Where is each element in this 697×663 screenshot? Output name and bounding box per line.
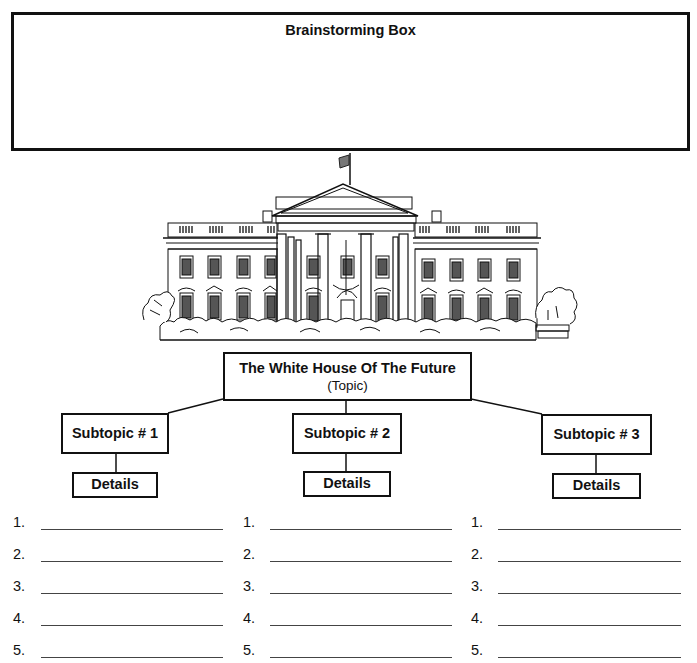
topic-box: The White House Of The Future (Topic) xyxy=(223,352,472,401)
detail-number: 2. xyxy=(471,546,491,562)
detail-number: 4. xyxy=(471,610,491,626)
subtopic-2-box: Subtopic # 2 xyxy=(292,413,402,454)
details-3-box: Details xyxy=(552,473,641,499)
detail-2-3-line[interactable] xyxy=(270,593,452,594)
detail-2-1-line[interactable] xyxy=(270,529,452,530)
detail-number: 5. xyxy=(243,642,263,658)
topic-title: The White House Of The Future xyxy=(225,359,470,377)
white-house-illustration xyxy=(140,150,590,350)
detail-2-2-line[interactable] xyxy=(270,561,452,562)
detail-1-4-line[interactable] xyxy=(41,625,223,626)
details-2-box: Details xyxy=(303,471,391,497)
detail-number: 4. xyxy=(243,610,263,626)
detail-3-3-line[interactable] xyxy=(498,593,681,594)
detail-3-2-line[interactable] xyxy=(498,561,681,562)
topic-subtitle: (Topic) xyxy=(225,377,470,394)
detail-1-2-line[interactable] xyxy=(41,561,223,562)
detail-number: 2. xyxy=(243,546,263,562)
detail-2-4-line[interactable] xyxy=(270,625,452,626)
details-1-box: Details xyxy=(72,472,158,498)
detail-1-1-line[interactable] xyxy=(41,529,223,530)
detail-3-5-line[interactable] xyxy=(498,657,681,658)
brainstorming-box-title: Brainstorming Box xyxy=(14,22,687,38)
brainstorming-writing-area[interactable] xyxy=(22,47,679,140)
detail-number: 5. xyxy=(471,642,491,658)
detail-number: 3. xyxy=(13,578,33,594)
brainstorming-box: Brainstorming Box xyxy=(11,12,690,151)
detail-number: 3. xyxy=(243,578,263,594)
detail-1-3-line[interactable] xyxy=(41,593,223,594)
detail-number: 3. xyxy=(471,578,491,594)
detail-number: 1. xyxy=(471,514,491,530)
detail-number: 2. xyxy=(13,546,33,562)
detail-number: 5. xyxy=(13,642,33,658)
subtopic-3-box: Subtopic # 3 xyxy=(541,414,652,455)
subtopic-1-box: Subtopic # 1 xyxy=(61,413,169,454)
detail-3-4-line[interactable] xyxy=(498,625,681,626)
detail-number: 4. xyxy=(13,610,33,626)
detail-number: 1. xyxy=(243,514,263,530)
detail-3-1-line[interactable] xyxy=(498,529,681,530)
detail-number: 1. xyxy=(13,514,33,530)
detail-2-5-line[interactable] xyxy=(270,657,452,658)
detail-1-5-line[interactable] xyxy=(41,657,223,658)
